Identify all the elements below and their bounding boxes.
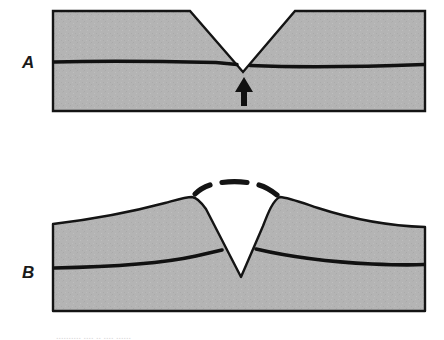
panel-b-label: B [22, 263, 34, 282]
panel-a-label: A [21, 53, 34, 72]
dashed-eroded-surface-arc [195, 182, 277, 195]
panel-b: B [22, 182, 425, 311]
panel-a: A [21, 11, 425, 111]
panel-b-rock-block [53, 197, 425, 311]
